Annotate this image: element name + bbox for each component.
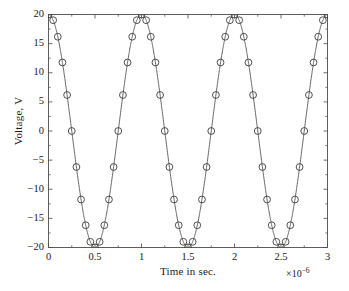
x-tick-label: 1 bbox=[122, 251, 162, 262]
x-axis-tick-labels: 00.511.522.53 bbox=[0, 0, 349, 291]
x-tick-label: 1.5 bbox=[168, 251, 208, 262]
x-tick-label: 0 bbox=[29, 251, 69, 262]
x-tick-label: 2 bbox=[215, 251, 255, 262]
exponent-base: ×10 bbox=[286, 268, 302, 279]
exponent-power: −6 bbox=[302, 266, 310, 275]
x-tick-label: 2.5 bbox=[261, 251, 301, 262]
y-axis-title: Voltage, V bbox=[12, 61, 24, 181]
x-tick-label: 3 bbox=[308, 251, 348, 262]
x-axis-exponent-multiplier: ×10−6 bbox=[286, 266, 310, 279]
x-tick-label: 0.5 bbox=[75, 251, 115, 262]
chart-figure: 20151050−5−10−15−20 00.511.522.53 Voltag… bbox=[0, 0, 349, 291]
